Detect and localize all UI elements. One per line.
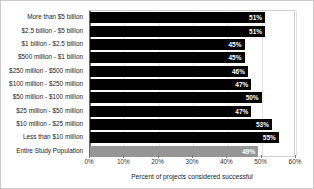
bar-value-label: 49% xyxy=(242,146,255,157)
bar-value-label: 46% xyxy=(232,66,245,77)
bar-value-label: 45% xyxy=(228,39,241,50)
x-tick-label: 30% xyxy=(186,158,199,165)
bar-rows: 51%51%45%45%46%47%50%47%53%55%49% xyxy=(90,11,294,156)
bar: 45% xyxy=(90,39,245,50)
bar: 47% xyxy=(90,79,251,90)
bar-row: 50% xyxy=(90,92,294,103)
category-axis-labels: More than $5 billion$2.5 billion - $5 bi… xyxy=(1,10,86,157)
category-label: $50 million - $100 million xyxy=(1,91,86,102)
category-label: Entire Study Population xyxy=(1,145,86,156)
gridline-60 xyxy=(296,11,297,156)
bar-row: 47% xyxy=(90,106,294,117)
plot-area: 51%51%45%45%46%47%50%47%53%55%49% xyxy=(89,10,295,157)
bar-chart: More than $5 billion$2.5 billion - $5 bi… xyxy=(0,0,314,189)
bar-row: 47% xyxy=(90,79,294,90)
bar-row: 53% xyxy=(90,119,294,130)
bar-row: 45% xyxy=(90,39,294,50)
bar-row: 45% xyxy=(90,52,294,63)
bar: 49% xyxy=(90,146,258,157)
bar: 55% xyxy=(90,132,279,143)
bar: 45% xyxy=(90,52,245,63)
bar-value-label: 55% xyxy=(263,132,276,143)
bar-value-label: 47% xyxy=(235,106,248,117)
x-tick-label: 10% xyxy=(117,158,130,165)
category-label: $250 million - $500 million xyxy=(1,65,86,76)
x-axis-title: Percent of projects considered successfu… xyxy=(89,173,295,180)
x-axis-ticks: 0%10%20%30%40%50%60% xyxy=(89,158,295,170)
category-label: $25 million - $50 million xyxy=(1,105,86,116)
category-label: $100 million - $250 million xyxy=(1,78,86,89)
category-label: Less than $10 million xyxy=(1,131,86,142)
bar-value-label: 45% xyxy=(228,52,241,63)
bar-value-label: 51% xyxy=(249,12,262,23)
bar: 50% xyxy=(90,92,262,103)
category-label: $1 billion - $2.5 billion xyxy=(1,38,86,49)
bar: 51% xyxy=(90,26,265,37)
bar: 47% xyxy=(90,106,251,117)
x-tick-label: 20% xyxy=(151,158,164,165)
bar-value-label: 53% xyxy=(256,119,269,130)
category-label: $10 million - $25 million xyxy=(1,118,86,129)
bar-row: 51% xyxy=(90,26,294,37)
bar: 46% xyxy=(90,66,248,77)
category-label: $500 million - $1 billion xyxy=(1,51,86,62)
x-tick-label: 40% xyxy=(220,158,233,165)
category-label: More than $5 billion xyxy=(1,11,86,22)
bar-value-label: 51% xyxy=(249,26,262,37)
bar: 53% xyxy=(90,119,272,130)
x-tick-label: 50% xyxy=(254,158,267,165)
x-tick-label: 60% xyxy=(289,158,302,165)
bar-value-label: 47% xyxy=(235,79,248,90)
bar: 51% xyxy=(90,12,265,23)
bar-row: 55% xyxy=(90,132,294,143)
bar-row: 46% xyxy=(90,66,294,77)
category-label: $2.5 billion - $5 billion xyxy=(1,25,86,36)
bar-value-label: 50% xyxy=(246,92,259,103)
bar-row: 51% xyxy=(90,12,294,23)
x-tick-label: 0% xyxy=(84,158,93,165)
